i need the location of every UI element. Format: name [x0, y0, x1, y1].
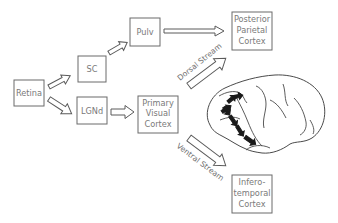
node-ppc-line-1: Posterior — [234, 14, 271, 24]
arrow-lgnd-to-v1 — [111, 106, 134, 119]
node-it-line-1: Infero- — [239, 177, 266, 187]
node-lgnd-label: LGNd — [81, 106, 103, 116]
node-retina: Retina — [14, 80, 44, 106]
node-v1-line-3: Cortex — [144, 119, 171, 129]
arrow-retina-to-lgnd — [46, 94, 75, 119]
arrow-pulv-to-ppc — [164, 26, 224, 36]
node-v1-line-1: Primary — [142, 98, 174, 108]
node-pulv-label: Pulv — [136, 27, 153, 37]
node-posterior-parietal-cortex: Posterior Parietal Cortex — [232, 12, 272, 50]
node-lgnd: LGNd — [77, 97, 107, 124]
node-primary-visual-cortex: Primary Visual Cortex — [138, 96, 178, 133]
node-it-line-2: temporal — [233, 188, 270, 198]
node-pulv: Pulv — [130, 18, 160, 46]
node-inferotemporal-cortex: Infero- temporal Cortex — [232, 175, 272, 213]
node-retina-label: Retina — [16, 88, 42, 98]
visual-pathways-diagram: Dorsal Stream Ventral Stream Retina SC L… — [0, 0, 338, 223]
arrow-sc-to-pulv — [107, 38, 130, 57]
arrow-retina-to-sc — [47, 71, 73, 91]
node-v1-line-2: Visual — [146, 108, 170, 118]
node-it-line-3: Cortex — [238, 199, 265, 209]
node-ppc-line-3: Cortex — [238, 36, 265, 46]
node-sc-label: SC — [87, 64, 98, 74]
node-ppc-line-2: Parietal — [237, 25, 268, 35]
node-sc: SC — [78, 56, 106, 82]
